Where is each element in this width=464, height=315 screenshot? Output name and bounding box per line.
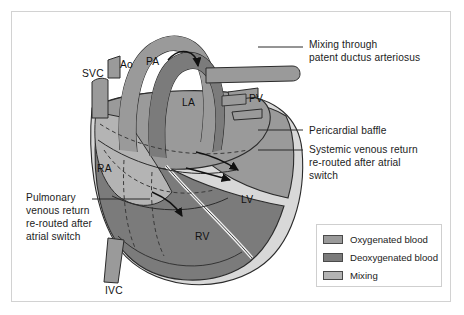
pa-branch-stub [222,94,246,106]
legend-item-deoxygenated: Deoxygenated blood [323,248,441,266]
legend-label-deoxygenated: Deoxygenated blood [350,252,438,263]
structure-label-ivc: IVC [105,285,123,296]
structure-label-rv: RV [195,231,210,242]
annotation-systemic-venous-return: Systemic venous return re-routed after a… [309,143,418,182]
legend-swatch-mixing [323,271,343,280]
annotation-pulmonary-venous-return: Pulmonary venous return re-routed after … [26,191,92,243]
brachiocephalic-stub [108,56,120,78]
structure-label-la: LA [182,97,195,108]
legend-swatch-oxygenated [323,235,343,244]
svc-vessel [92,78,108,118]
structure-label-lv: LV [241,194,253,205]
legend-item-mixing: Mixing [323,266,441,284]
ivc-vessel [104,238,124,283]
structure-label-ao: Ao [120,59,133,70]
legend-label-oxygenated: Oxygenated blood [350,234,428,245]
descending-aorta [206,66,300,83]
legend: Oxygenated blood Deoxygenated blood Mixi… [316,224,442,287]
legend-swatch-deoxygenated [323,253,343,262]
legend-label-mixing: Mixing [350,270,378,281]
structure-label-svc: SVC [82,68,104,79]
legend-item-oxygenated: Oxygenated blood [323,230,441,248]
figure-canvas: SVC Ao PA LA PV RA LV RV IVC Mixing thro… [0,0,464,315]
structure-label-pa: PA [146,56,159,67]
annotation-pda: Mixing through patent ductus arteriosus [309,38,420,64]
annotation-pericardial-baffle: Pericardial baffle [309,124,387,137]
structure-label-pv: PV [249,93,263,104]
structure-label-ra: RA [97,163,112,174]
